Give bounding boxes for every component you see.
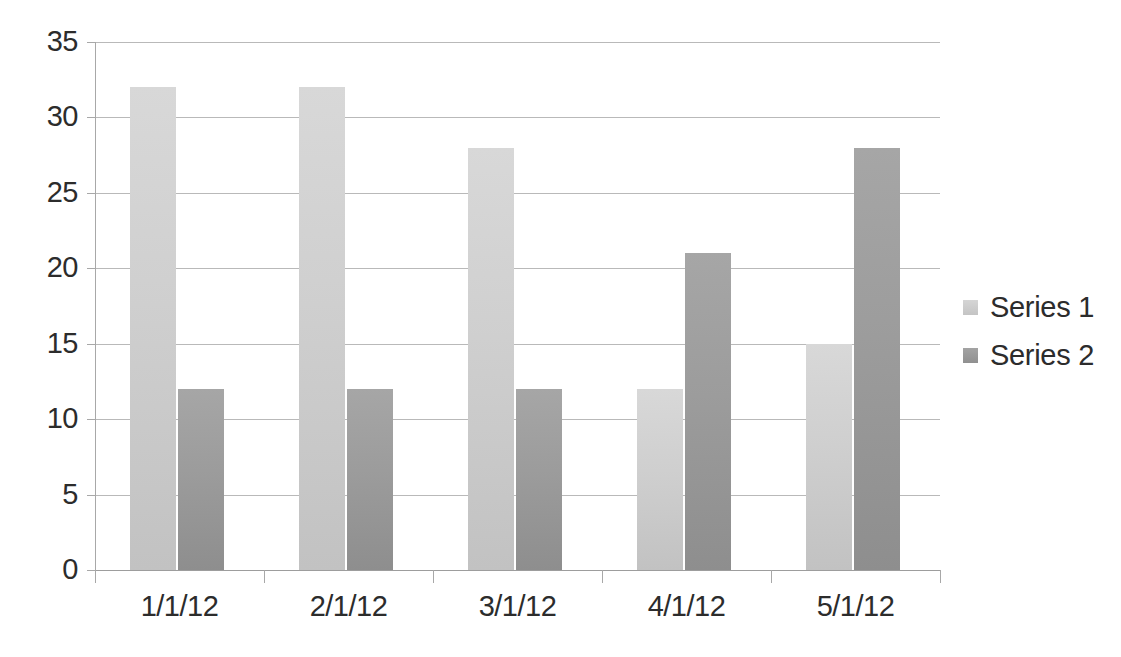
bar-1-4-1-12[interactable] [637, 389, 683, 570]
x-axis-line [95, 570, 941, 571]
x-tick-0 [95, 570, 96, 583]
legend-swatch-icon-series-2 [963, 348, 978, 363]
bar-1-5-1-12[interactable] [806, 344, 852, 570]
y-tick-label-25: 25 [47, 178, 78, 207]
x-tick-label-5-1-12: 5/1/12 [771, 592, 941, 621]
bar-2-2-1-12[interactable] [347, 389, 393, 570]
x-tick-label-4-1-12: 4/1/12 [602, 592, 772, 621]
y-tick-0 [87, 570, 95, 571]
y-tick-20 [87, 268, 95, 269]
x-tick-label-1-1-12: 1/1/12 [95, 592, 265, 621]
y-tick-30 [87, 117, 95, 118]
bar-1-2-1-12[interactable] [299, 87, 345, 570]
bar-1-1-1-12[interactable] [130, 87, 176, 570]
y-tick-label-30: 30 [47, 102, 78, 131]
y-tick-label-20: 20 [47, 253, 78, 282]
chart-legend: Series 1 Series 2 [963, 283, 1094, 379]
legend-entry-series-2[interactable]: Series 2 [963, 331, 1094, 379]
y-tick-label-5: 5 [62, 480, 78, 509]
legend-label-series-2: Series 2 [990, 341, 1094, 370]
y-tick-25 [87, 193, 95, 194]
legend-label-series-1: Series 1 [990, 293, 1094, 322]
x-tick-2 [433, 570, 434, 583]
x-tick-3 [602, 570, 603, 583]
y-tick-15 [87, 344, 95, 345]
x-tick-label-3-1-12: 3/1/12 [433, 592, 603, 621]
x-tick-4 [771, 570, 772, 583]
bar-2-3-1-12[interactable] [516, 389, 562, 570]
legend-swatch-icon-series-1 [963, 300, 978, 315]
bar-2-1-1-12[interactable] [178, 389, 224, 570]
x-tick-1 [264, 570, 265, 583]
bar-chart: 05101520253035 1/1/122/1/123/1/124/1/125… [0, 0, 1121, 657]
y-tick-label-35: 35 [47, 27, 78, 56]
y-tick-label-0: 0 [62, 555, 78, 584]
legend-entry-series-1[interactable]: Series 1 [963, 283, 1094, 331]
y-tick-label-15: 15 [47, 329, 78, 358]
bar-1-3-1-12[interactable] [468, 148, 514, 570]
y-tick-label-10: 10 [47, 404, 78, 433]
x-tick-label-2-1-12: 2/1/12 [264, 592, 434, 621]
bar-2-4-1-12[interactable] [685, 253, 731, 570]
bar-2-5-1-12[interactable] [854, 148, 900, 570]
y-tick-10 [87, 419, 95, 420]
plot-area [95, 42, 940, 570]
y-tick-5 [87, 495, 95, 496]
y-tick-35 [87, 42, 95, 43]
x-tick-5 [940, 570, 941, 583]
